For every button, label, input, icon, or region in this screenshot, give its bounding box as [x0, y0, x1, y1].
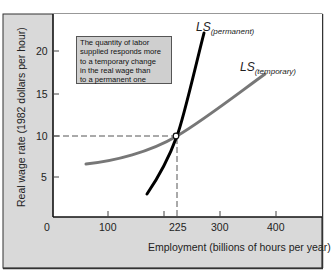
y-tick-label-20: 20	[36, 45, 48, 57]
x-tick-label-400: 400	[267, 221, 285, 233]
equilibrium-point	[173, 133, 179, 139]
x-tick-label-0: 0	[44, 221, 50, 233]
x-tick-label-225: 225	[169, 221, 187, 233]
y-axis-title: Real wage rate (1982 dollars per hour)	[15, 47, 29, 207]
y-tick-label-15: 15	[36, 88, 48, 100]
ls-permanent-label: LS(permanent)	[196, 17, 254, 35]
x-tick-label-100: 100	[99, 221, 117, 233]
y-tick-label-5: 5	[41, 171, 47, 183]
callout-box: The quantity of labor supplied responds …	[76, 36, 172, 84]
x-tick-label-300: 300	[211, 221, 229, 233]
ls-temporary-label-main: LS	[240, 60, 255, 74]
x-axis-title: Employment (billions of hours per year)	[148, 241, 331, 253]
y-tick-label-10: 10	[36, 130, 48, 142]
ls-temporary-label: LS(temporary)	[240, 57, 296, 75]
ls-temporary-label-sub: (temporary)	[255, 67, 296, 76]
ls-permanent-label-sub: (permanent)	[211, 27, 255, 36]
ls-permanent-label-main: LS	[196, 20, 211, 34]
